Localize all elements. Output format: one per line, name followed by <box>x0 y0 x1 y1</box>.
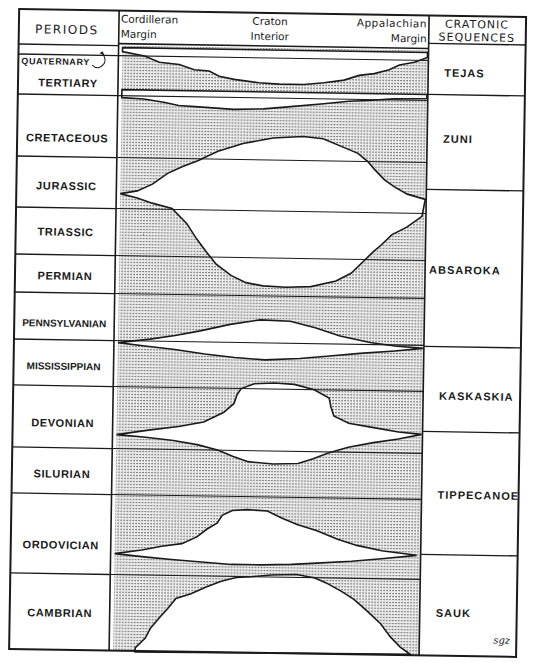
sequence-row-line <box>423 431 520 433</box>
period-row-line <box>12 447 112 449</box>
period-row-line <box>14 339 114 341</box>
cordilleran-margin-label-1: Cordilleran <box>121 13 178 26</box>
sequence-row-line <box>424 346 521 348</box>
period-label-cretaceous: CRETACEOUS <box>26 131 108 144</box>
sequence-label-sauk: SAUK <box>436 607 471 620</box>
period-row-line <box>13 385 113 387</box>
period-label-tertiary: TERTIARY <box>38 76 98 89</box>
appalachian-margin-label-2: Margin <box>391 32 427 45</box>
period-label-cambrian: CAMBRIAN <box>27 606 92 619</box>
sequence-row-line <box>428 94 525 96</box>
sequence-row-lines <box>421 43 526 555</box>
craton-interior-label-2: Interior <box>251 30 290 43</box>
period-row-line <box>10 573 110 575</box>
sequence-labels: TEJASZUNIABSAROKAKASKASKIATIPPECANOESAUK <box>424 67 526 620</box>
cordilleran-margin-label-2: Margin <box>121 28 157 41</box>
signature: sgz <box>493 635 511 646</box>
appalachian-margin-label-1: Appalachian <box>357 16 427 29</box>
chart-body <box>109 46 428 657</box>
periods-header: PERIODS <box>35 22 99 37</box>
period-row-line <box>12 493 112 495</box>
sequence-label-tejas: TEJAS <box>444 67 485 80</box>
sequence-label-zuni: ZUNI <box>443 133 473 145</box>
cratonic-header-2: SEQUENCES <box>438 31 515 45</box>
sequence-label-kaskaskia: KASKASKIA <box>439 390 514 403</box>
sequence-row-line <box>421 554 518 556</box>
period-label-pennsylvanian: PENNSYLVANIAN <box>22 317 106 329</box>
period-label-quaternary: QUATERNARY <box>21 56 90 67</box>
period-label-mississippian: MISSISSIPPIAN <box>27 360 101 372</box>
period-label-jurassic: JURASSIC <box>36 179 97 192</box>
period-row-lines <box>10 44 118 575</box>
sequence-label-absaroka: ABSAROKA <box>429 263 501 276</box>
cratonic-sequences-diagram: PERIODS Cordilleran Margin Craton Interi… <box>0 0 543 669</box>
period-row-line <box>19 44 119 46</box>
period-labels: QUATERNARYTERTIARYCRETACEOUSJURASSICTRIA… <box>13 56 111 619</box>
sequence-row-line <box>426 189 523 191</box>
period-row-line <box>15 254 115 256</box>
period-label-silurian: SILURIAN <box>33 467 90 480</box>
period-label-triassic: TRIASSIC <box>38 225 94 238</box>
period-label-ordovician: ORDOVICIAN <box>23 538 99 551</box>
period-row-line <box>15 292 115 294</box>
period-label-permian: PERMIAN <box>37 269 92 282</box>
cratonic-header-1: CRATONIC <box>445 18 509 32</box>
period-label-devonian: DEVONIAN <box>31 416 94 429</box>
period-row-line <box>17 156 117 158</box>
sequence-label-tippecanoe: TIPPECANOE <box>437 489 519 502</box>
craton-interior-label-1: Craton <box>252 15 287 28</box>
period-row-line <box>18 94 118 96</box>
period-row-line <box>16 207 116 209</box>
